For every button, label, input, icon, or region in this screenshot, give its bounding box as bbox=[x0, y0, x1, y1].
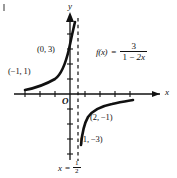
y-axis-label: y bbox=[68, 1, 72, 11]
asymptote-denominator: 2 bbox=[73, 168, 81, 175]
formula-denominator-minus: − bbox=[129, 52, 134, 62]
formula-denominator-left: 1 bbox=[122, 52, 127, 62]
point-label-0-3: (0, 3) bbox=[37, 44, 55, 54]
formula-denominator: 1 − 2x bbox=[120, 52, 147, 62]
curve-left-branch bbox=[25, 22, 75, 90]
formula-function-name: f(x) bbox=[96, 47, 107, 57]
asymptote-fraction: 1 2 bbox=[73, 160, 81, 176]
function-graph-figure: y x O (0, 3) (−1, 1) (2, −1) (1, −3) f(x… bbox=[0, 0, 177, 178]
x-axis bbox=[14, 91, 160, 97]
asymptote-equals: = bbox=[65, 163, 70, 173]
x-axis-label: x bbox=[165, 87, 169, 97]
formula-fraction: 3 1 − 2x bbox=[120, 42, 147, 63]
point-label-2-neg1: (2, −1) bbox=[90, 112, 113, 122]
asymptote-variable: x bbox=[58, 163, 62, 173]
point-label-neg1-1: (−1, 1) bbox=[8, 66, 31, 76]
formula-numerator: 3 bbox=[127, 42, 140, 51]
formula-denominator-right: 2x bbox=[136, 52, 145, 62]
graph-canvas bbox=[0, 0, 177, 178]
origin-label: O bbox=[62, 96, 68, 106]
asymptote-equation-label: x = 1 2 bbox=[58, 160, 81, 176]
formula-equals: = bbox=[111, 47, 116, 57]
asymptote-numerator: 1 bbox=[73, 160, 81, 167]
function-formula: f(x) = 3 1 − 2x bbox=[96, 42, 147, 63]
point-label-1-neg3: (1, −3) bbox=[80, 134, 103, 144]
